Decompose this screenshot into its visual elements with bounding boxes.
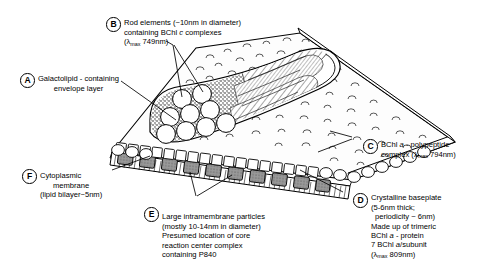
label-f-line3: (lipid bilayer~5nm) [40,190,102,199]
label-e-intramembrane-particles: ELarge intramembrane particles(mostly 10… [136,198,265,269]
label-d-line5: BChl a - protein [371,231,442,240]
label-e-line2: (mostly 10-14nm in diameter) [162,222,265,231]
label-e-text: Large intramembrane particles(mostly 10-… [162,207,265,259]
label-d-text: Crystalline baseplate(5-6nm thick;period… [371,193,442,260]
label-a-line1: Galactolipid - containing [38,74,119,83]
label-d-line7: (λmax 809nm) [371,250,442,260]
label-a-envelope-layer: AGalactolipid - containingenvelope layer [12,64,119,103]
label-b-line3: (λmax 749nm) [124,37,241,47]
label-d-crystalline-baseplate: DCrystalline baseplate(5-6nm thick;perio… [345,184,441,270]
label-a-key: A [20,73,35,88]
label-e-key: E [144,207,159,222]
label-d-line6: 7 BChl a/subunit [371,240,442,249]
figure-canvas: BRod elements (~10nm in diameter)contain… [0,0,490,274]
label-f-line1: Cytoplasmic [40,171,102,180]
label-b-text: Rod elements (~10nm in diameter)containi… [124,17,241,47]
label-e-line1: Large intramembrane particles [162,212,265,221]
label-e-line5: containing P840 [162,250,265,259]
label-a-text: Galactolipid - containingenvelope layer [38,73,119,93]
label-c-text: BChl a - polypeptidecomplex (λmax 794nm) [381,139,456,160]
label-d-line3: periodicity ~ 6nm) [371,212,442,221]
label-a-line2: envelope layer [38,84,119,93]
label-e-line4: reaction center complex [162,241,265,250]
label-b-rod-elements: BRod elements (~10nm in diameter)contain… [98,8,241,57]
label-c-bchl-a-complex: CBChl a - polypeptidecomplex (λmax 794nm… [355,130,456,170]
label-c-line2: complex (λmax 794nm) [381,150,456,160]
label-b-line1: Rod elements (~10nm in diameter) [124,18,241,27]
label-f-line2: membrane [40,181,102,190]
label-f-key: F [22,169,37,184]
label-c-line1: BChl a - polypeptide [381,140,456,149]
label-c-key: C [363,139,378,154]
label-b-line2: containing BChl c complexes [124,28,241,37]
label-d-line4: Made up of trimeric [371,222,442,231]
label-d-line1: Crystalline baseplate [371,193,442,202]
label-e-line3: Presumed location of core [162,231,265,240]
label-d-line2: (5-6nm thick; [371,203,442,212]
label-d-key: D [353,193,368,208]
label-f-text: Cytoplasmicmembrane(lipid bilayer~5nm) [40,169,102,199]
label-f-cytoplasmic-membrane: FCytoplasmicmembrane(lipid bilayer~5nm) [14,160,102,209]
label-b-key: B [106,17,121,32]
